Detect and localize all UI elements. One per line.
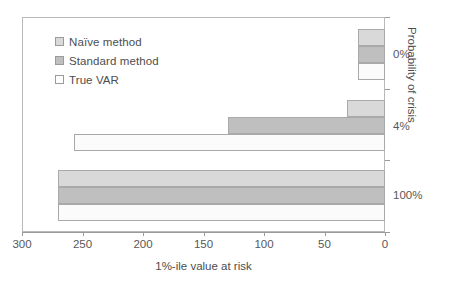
bar-0pct-standard bbox=[358, 46, 385, 63]
y-tick bbox=[385, 232, 390, 233]
x-tick-label: 200 bbox=[133, 238, 152, 250]
bar-4pct-naive bbox=[347, 100, 385, 117]
y-axis-title: Probability of crisis bbox=[406, 27, 418, 222]
y-tick bbox=[385, 160, 390, 161]
x-tick bbox=[83, 232, 84, 236]
legend-label-standard: Standard method bbox=[69, 55, 159, 67]
legend-label-naive: Naïve method bbox=[69, 36, 142, 48]
x-tick-label: 150 bbox=[194, 238, 213, 250]
legend-item-standard: Standard method bbox=[55, 52, 159, 69]
x-tick bbox=[204, 232, 205, 236]
bar-0pct-truevar bbox=[358, 63, 385, 80]
legend-swatch-truevar bbox=[55, 75, 64, 84]
x-tick bbox=[22, 232, 23, 236]
x-tick-label: 0 bbox=[382, 238, 388, 250]
chart-legend: Naïve method Standard method True VAR bbox=[55, 33, 159, 90]
x-axis-title: 1%-ile value at risk bbox=[0, 260, 407, 272]
bar-100pct-standard bbox=[58, 187, 385, 204]
x-tick-label: 100 bbox=[254, 238, 273, 250]
y-tick bbox=[385, 89, 390, 90]
legend-label-truevar: True VAR bbox=[69, 74, 119, 86]
bar-100pct-naive bbox=[58, 170, 385, 187]
bar-4pct-standard bbox=[228, 117, 385, 134]
legend-swatch-standard bbox=[55, 56, 64, 65]
x-tick bbox=[264, 232, 265, 236]
legend-item-truevar: True VAR bbox=[55, 71, 159, 88]
x-tick-label: 300 bbox=[12, 238, 31, 250]
bar-100pct-truevar bbox=[58, 204, 385, 221]
x-tick-label: 50 bbox=[318, 238, 331, 250]
legend-swatch-naive bbox=[55, 37, 64, 46]
legend-item-naive: Naïve method bbox=[55, 33, 159, 50]
x-tick bbox=[143, 232, 144, 236]
x-tick bbox=[325, 232, 326, 236]
y-tick bbox=[385, 17, 390, 18]
x-tick-label: 250 bbox=[73, 238, 92, 250]
bar-chart: Naïve method Standard method True VAR 30… bbox=[0, 0, 452, 285]
bar-0pct-naive bbox=[358, 29, 385, 46]
bar-4pct-truevar bbox=[74, 134, 385, 151]
